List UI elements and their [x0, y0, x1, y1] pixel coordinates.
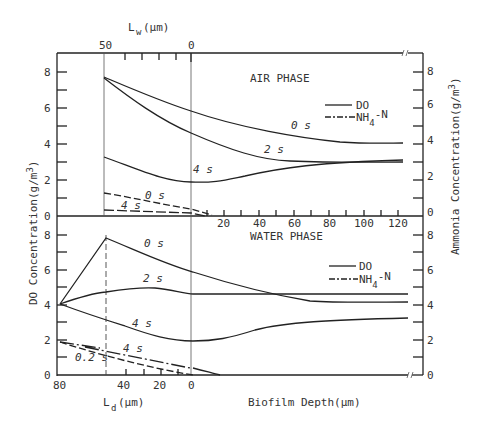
svg-text:2: 2: [44, 334, 51, 347]
svg-text:DO: DO: [359, 260, 372, 273]
svg-text:40: 40: [253, 217, 266, 230]
svg-text:(μm): (μm): [118, 396, 145, 409]
svg-text:40: 40: [117, 379, 130, 392]
left-y-labels-bottom: 0 2 4 6 8: [44, 229, 51, 382]
svg-text:100: 100: [354, 217, 374, 230]
air-nh4-4s: [104, 210, 205, 216]
svg-text:120: 120: [388, 217, 408, 230]
air-curve-labels: 0 s 2 s 4 s 0 s 4 s: [121, 119, 311, 212]
svg-text:6: 6: [44, 264, 51, 277]
svg-text:2: 2: [427, 170, 434, 183]
svg-text:6: 6: [427, 98, 434, 111]
svg-text:6: 6: [44, 102, 51, 115]
biofilm-chart: 0 2 4 6 8 0 2 4 6 8: [0, 0, 479, 432]
depth-x-ticks: [207, 210, 398, 216]
svg-text:4: 4: [44, 138, 51, 151]
svg-text:4: 4: [427, 299, 434, 312]
svg-text:4 s: 4 s: [132, 317, 152, 330]
top-x-ticks: [125, 53, 191, 62]
svg-text:L: L: [103, 396, 110, 409]
svg-text:L: L: [128, 21, 135, 34]
svg-text:0: 0: [44, 210, 51, 223]
air-phase-title: AIR PHASE: [250, 72, 310, 85]
axis-break-bottom-icon: [407, 372, 413, 378]
svg-text:w: w: [136, 27, 142, 37]
depth-x-labels: 20 40 60 80 100 120: [217, 217, 408, 230]
svg-text:20: 20: [153, 379, 166, 392]
top-tick-0: 0: [188, 39, 195, 52]
left-y-labels-top: 0 2 4 6 8: [44, 66, 51, 223]
svg-text:Ammonia Concentration(g/m3): Ammonia Concentration(g/m3): [447, 77, 462, 255]
left-y-ticks-top: [57, 72, 67, 198]
svg-text:8: 8: [44, 229, 51, 242]
svg-text:2 s: 2 s: [264, 143, 284, 156]
svg-text:6: 6: [427, 264, 434, 277]
svg-text:8: 8: [427, 65, 434, 78]
lw-axis-label: L w (μm): [128, 21, 170, 37]
svg-text:60: 60: [288, 217, 301, 230]
axis-break-top-icon: [402, 50, 408, 56]
water-legend: DO NH4-N: [329, 260, 391, 290]
y-right-title: Ammonia Concentration(g/m3): [447, 77, 462, 255]
svg-text:80: 80: [323, 217, 336, 230]
svg-text:8: 8: [44, 66, 51, 79]
svg-text:0: 0: [427, 206, 434, 219]
svg-text:0: 0: [188, 379, 195, 392]
svg-text:2: 2: [44, 174, 51, 187]
svg-text:0: 0: [44, 369, 51, 382]
svg-text:0 s: 0 s: [145, 189, 165, 202]
svg-text:NH4-N: NH4-N: [359, 270, 391, 290]
bottom-x-labels: 80 40 20 0: [53, 379, 195, 392]
water-curves: [60, 238, 408, 375]
air-do-4s: [104, 157, 403, 182]
svg-text:NH4-N: NH4-N: [356, 108, 388, 128]
x-axis-title: Biofilm Depth(μm): [248, 396, 361, 409]
svg-text:0 s: 0 s: [291, 119, 311, 132]
svg-text:0 s: 0 s: [144, 237, 164, 250]
right-y-ticks: [413, 72, 423, 357]
svg-text:4: 4: [427, 134, 434, 147]
svg-text:d: d: [111, 403, 116, 413]
ld-axis-label: L d (μm): [103, 396, 145, 413]
y-left-title: DO Concentration(g/m3): [25, 161, 40, 306]
svg-text:20: 20: [217, 217, 230, 230]
svg-text:4 s: 4 s: [123, 342, 143, 355]
svg-text:DO Concentration(g/m3): DO Concentration(g/m3): [25, 161, 40, 306]
svg-text:2: 2: [427, 334, 434, 347]
svg-text:4: 4: [44, 299, 51, 312]
svg-text:2 s: 2 s: [143, 272, 163, 285]
water-phase-title: WATER PHASE: [250, 230, 323, 243]
svg-text:0.2 s: 0.2 s: [75, 351, 108, 364]
top-tick-50: 50: [99, 39, 112, 52]
svg-text:80: 80: [53, 379, 66, 392]
air-legend: DO NH4-N: [325, 99, 388, 128]
water-do-4s: [60, 304, 408, 341]
svg-text:0: 0: [427, 369, 434, 382]
bottom-x-ticks: [126, 369, 178, 375]
water-do-tail: [193, 368, 220, 375]
svg-text:4 s: 4 s: [193, 163, 213, 176]
svg-text:(μm): (μm): [143, 21, 170, 34]
right-y-labels: 0 2 4 6 8 0 2 4 6 8: [427, 65, 434, 382]
svg-text:8: 8: [427, 229, 434, 242]
svg-text:4 s: 4 s: [121, 199, 141, 212]
